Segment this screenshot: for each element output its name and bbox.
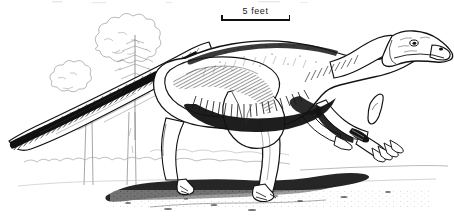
illustration-artwork bbox=[0, 0, 454, 219]
eye bbox=[410, 40, 418, 46]
nostril bbox=[439, 48, 443, 51]
dinosaur-illustration-figure: 5 feet bbox=[0, 0, 454, 219]
